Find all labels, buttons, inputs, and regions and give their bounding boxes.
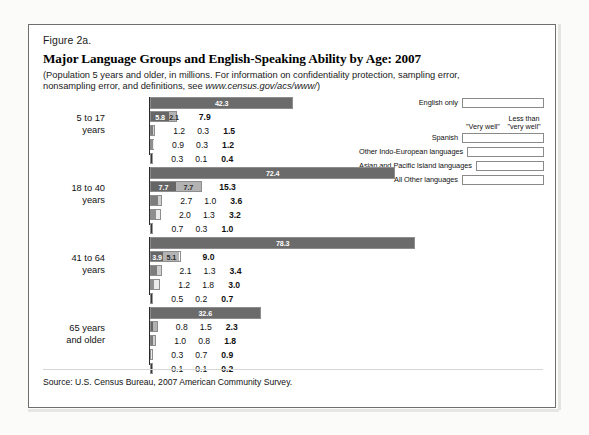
bar-segment-less-than-very-well [156, 210, 159, 219]
bar-value-labels: 7.9 [185, 112, 211, 122]
age-group-18-to-40: 18 to 40 years 72.47.77.715.32.71.03.62.… [43, 167, 443, 237]
bar-less-than-value: 0.3 [184, 140, 208, 150]
bar-row: 0.30.70.9 [150, 349, 443, 361]
bar-very-well-value: 0.8 [166, 322, 188, 332]
source-divider [43, 369, 543, 370]
bar-row: 42.3 [150, 97, 443, 109]
bar-total-value: 0.7 [207, 294, 233, 304]
bar-less-than-value: 0.7 [183, 350, 207, 360]
bar-row: 1.20.31.5 [150, 125, 443, 137]
bar-segment-less-than-very-well: 2.1 [169, 112, 176, 121]
bar-row: 1.00.81.8 [150, 335, 443, 347]
legend-swatch-less-than [503, 99, 543, 107]
bar-total-value: 0.4 [207, 154, 233, 164]
bar-very-well-value: 1.2 [168, 280, 190, 290]
bar-row: 78.3 [150, 237, 443, 249]
bar-total-value: 3.2 [215, 210, 241, 220]
bar-row: 72.4 [150, 167, 443, 179]
bar-value-labels: 1.00.81.8 [164, 336, 236, 346]
bar-less-than-value: 1.0 [192, 196, 216, 206]
legend-swatch-very-well [477, 162, 510, 170]
age-group-label-line1: 5 to 17 [43, 113, 105, 125]
age-group-label: 41 to 64 years [43, 253, 105, 276]
bar-segment-label: 72.4 [151, 169, 394, 178]
bar-language: 3.95.1 [150, 251, 181, 262]
bar-segment-less-than-very-well [151, 350, 152, 359]
bar-total-value: 1.0 [207, 224, 233, 234]
legend-heading-less-than-line2: "very well" [503, 123, 545, 131]
scan-edge-bottom [28, 409, 559, 412]
bar-value-labels: 2.71.03.6 [170, 196, 242, 206]
bar-total-value: 3.0 [214, 280, 240, 290]
bar-segment-less-than-very-well [153, 140, 154, 149]
legend-swatch-all-other [462, 175, 544, 185]
group-bar-rows: 72.47.77.715.32.71.03.62.01.33.20.70.31.… [150, 167, 443, 237]
bar-total-value: 3.6 [216, 196, 242, 206]
age-group-label-line1: 41 to 64 [43, 253, 105, 265]
bar-segment-less-than-very-well [153, 322, 157, 331]
bar-segment-less-than-very-well [154, 280, 159, 289]
bar-segment-very-well: 7.7 [151, 182, 176, 191]
bar-value-labels: 0.30.10.4 [161, 154, 233, 164]
bar-english-only: 32.6 [150, 307, 261, 319]
bar-value-labels: 1.20.31.5 [163, 126, 235, 136]
bar-total-value: 15.3 [210, 182, 236, 192]
bar-total-value: 0.9 [207, 350, 233, 360]
bar-value-labels: 1.21.83.0 [168, 280, 240, 290]
bar-very-well-value: 2.1 [170, 266, 192, 276]
bar-segment-less-than-very-well [153, 126, 154, 135]
age-group-label: 5 to 17 years [43, 113, 105, 136]
figure-subtitle-url: www.census.gov/acs/www/ [205, 81, 317, 91]
figure-subtitle: (Population 5 years and older, in millio… [43, 70, 513, 93]
legend-swatch-very-well [463, 176, 503, 184]
bar-value-labels: 0.50.20.7 [161, 294, 233, 304]
bar-language [150, 335, 156, 346]
bar-row: 32.6 [150, 307, 443, 319]
bar-less-than-value: 0.2 [183, 294, 207, 304]
legend-swatch-less-than [510, 162, 543, 170]
bar-value-labels: 0.70.31.0 [161, 224, 233, 234]
bar-segment-label: 78.3 [151, 239, 414, 248]
bar-segment-very-well [151, 196, 158, 205]
bar-english-only: 42.3 [150, 97, 293, 109]
bar-segment-very-well: 5.8 [151, 112, 169, 121]
bar-segment-label: 2.1 [169, 112, 176, 121]
bar-less-than-value: 1.3 [192, 266, 216, 276]
legend-swatch-less-than [506, 148, 543, 156]
bar-segment-label: 5.1 [163, 252, 179, 261]
bar-less-than-value: 1.3 [191, 210, 215, 220]
bar-total-value: 3.4 [216, 266, 242, 276]
legend-swatch-less-than [503, 134, 543, 142]
age-group-label-line2: years [43, 265, 105, 277]
bar-language [150, 279, 160, 290]
age-group-5-to-17: 5 to 17 years 42.35.82.17.91.20.31.50.90… [43, 97, 443, 167]
bar-segment-label: 32.6 [151, 309, 260, 318]
legend-swatch-english-only [462, 98, 544, 108]
bar-very-well-value: 2.7 [170, 196, 192, 206]
bar-row: 0.30.10.4 [150, 153, 443, 165]
bar-segment-less-than-very-well [153, 336, 155, 345]
bar-total-value: 2.3 [212, 322, 238, 332]
group-bar-rows: 42.35.82.17.91.20.31.50.90.31.20.30.10.4 [150, 97, 443, 167]
bar-row: 0.81.52.3 [150, 321, 443, 333]
bar-row: 0.70.31.0 [150, 223, 443, 235]
bar-value-labels: 0.81.52.3 [166, 322, 238, 332]
legend-heading-very-well: "Very well" [462, 123, 504, 131]
bar-total-value: 1.2 [208, 140, 234, 150]
age-group-label-line2: years [43, 195, 105, 207]
bar-segment-less-than-very-well: 5.1 [163, 252, 179, 261]
bar-segment-less-than-very-well: 7.7 [176, 182, 201, 191]
bar-value-labels: 2.01.33.2 [169, 210, 241, 220]
bar-value-labels: 15.3 [210, 182, 236, 192]
chart-plot-area: 5 to 17 years 42.35.82.17.91.20.31.50.90… [43, 97, 443, 377]
bar-value-labels: 2.11.33.4 [170, 266, 242, 276]
legend-heading-less-than: Less than "very well" [503, 115, 545, 131]
bar-total-value: 9.0 [189, 252, 215, 262]
bar-language: 5.82.1 [150, 111, 177, 122]
legend-swatch-very-well [468, 148, 505, 156]
bar-segment-very-well: 32.6 [151, 308, 260, 318]
legend-swatch-very-well [463, 134, 503, 142]
bar-segment-very-well: 3.9 [151, 252, 163, 261]
bar-language [150, 195, 162, 206]
bar-value-labels: 0.30.70.9 [161, 350, 233, 360]
